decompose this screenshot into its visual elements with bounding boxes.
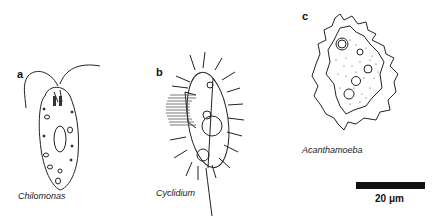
panel-label-c: c: [302, 10, 308, 22]
scale-bar: [356, 182, 425, 189]
figure-illustrations: [0, 0, 441, 224]
species-label-chilomonas: Chilomonas: [18, 191, 66, 201]
species-label-acanthamoeba: Acanthamoeba: [302, 145, 363, 155]
panel-label-b: b: [156, 66, 163, 78]
scale-bar-label: 20 μm: [375, 193, 404, 204]
species-label-cyclidium: Cyclidium: [156, 188, 195, 198]
acanthamoeba-drawing: [312, 14, 398, 130]
chilomonas-drawing: [24, 65, 100, 190]
panel-label-a: a: [17, 68, 23, 80]
